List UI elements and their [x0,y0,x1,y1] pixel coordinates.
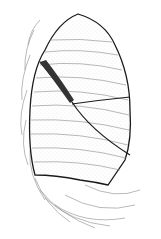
lung-illustration [0,0,161,239]
